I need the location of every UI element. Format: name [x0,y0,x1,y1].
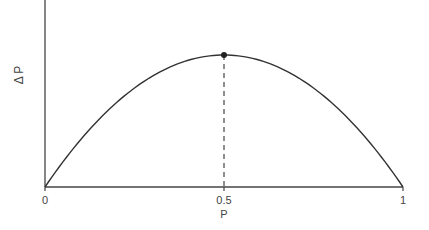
x-tick-label-0.5: 0.5 [216,194,231,206]
x-tick-label-0: 0 [42,194,48,206]
y-axis-label: Δ P [12,66,26,85]
peak-point [221,52,227,58]
x-axis-label: P [220,208,227,220]
chart-plot [0,0,429,230]
x-tick-label-1: 1 [400,194,406,206]
